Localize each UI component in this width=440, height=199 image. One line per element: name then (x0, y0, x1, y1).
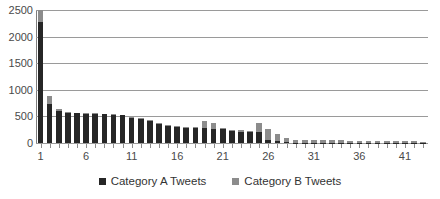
bar-column[interactable] (127, 10, 136, 143)
bar-column[interactable] (291, 10, 300, 143)
x-axis-tick (246, 144, 255, 149)
y-axis-tick-label: 1000 (3, 84, 33, 95)
bar-segment-category-a[interactable] (165, 126, 171, 143)
bar-column[interactable] (400, 10, 409, 143)
bar-segment-category-a[interactable] (220, 129, 226, 143)
bar-segment-category-a[interactable] (229, 131, 235, 143)
bar-column[interactable] (218, 10, 227, 143)
x-axis-label-cell (145, 150, 154, 166)
bar-column[interactable] (136, 10, 145, 143)
bar-segment-category-a[interactable] (47, 104, 53, 143)
bar-segment-category-b[interactable] (256, 123, 262, 132)
bar-segment-category-a[interactable] (156, 124, 162, 143)
bar-column[interactable] (173, 10, 182, 143)
bar-column[interactable] (282, 10, 291, 143)
x-axis-tick (82, 144, 91, 149)
legend-item[interactable]: Category A Tweets (99, 175, 207, 187)
bar-segment-category-a[interactable] (138, 119, 144, 143)
bar-segment-category-a[interactable] (202, 128, 208, 143)
bar-column[interactable] (273, 10, 282, 143)
bar-column[interactable] (227, 10, 236, 143)
bar-segment-category-a[interactable] (38, 22, 44, 143)
bar-segment-category-b[interactable] (47, 96, 53, 103)
bar-column[interactable] (373, 10, 382, 143)
y-axis-tick-label: 0 (3, 138, 33, 149)
bar-column[interactable] (255, 10, 264, 143)
x-axis-label-cell (382, 150, 391, 166)
bar-column[interactable] (200, 10, 209, 143)
bar-segment-category-a[interactable] (129, 118, 135, 143)
bar-segment-category-a[interactable] (265, 140, 271, 143)
bar-column[interactable] (54, 10, 63, 143)
bar-segment-category-b[interactable] (275, 134, 281, 141)
bar-column[interactable] (309, 10, 318, 143)
bar-segment-category-a[interactable] (147, 121, 153, 143)
bar-column[interactable] (182, 10, 191, 143)
bar-segment-category-a[interactable] (193, 128, 199, 143)
legend-item[interactable]: Category B Tweets (232, 175, 341, 187)
x-axis-label-cell (100, 150, 109, 166)
bar-segment-category-a[interactable] (238, 132, 244, 143)
bar-column[interactable] (409, 10, 418, 143)
bar-segment-category-a[interactable] (74, 113, 80, 143)
bar-column[interactable] (355, 10, 364, 143)
bar-column[interactable] (164, 10, 173, 143)
bar-segment-category-a[interactable] (56, 111, 62, 143)
x-axis-tick (100, 144, 109, 149)
bar-segment-category-a[interactable] (120, 115, 126, 143)
bar-column[interactable] (209, 10, 218, 143)
bar-column[interactable] (154, 10, 163, 143)
bar-segment-category-a[interactable] (83, 114, 89, 143)
bar-segment-category-a[interactable] (275, 141, 281, 143)
bar-column[interactable] (118, 10, 127, 143)
y-axis-tick-label: 2500 (3, 5, 33, 16)
bar-segment-category-a[interactable] (92, 114, 98, 143)
x-axis-tick (264, 144, 273, 149)
bar-segment-category-a[interactable] (284, 142, 290, 143)
bar-column[interactable] (419, 10, 428, 143)
x-axis-tick (173, 144, 182, 149)
bar-segment-category-a[interactable] (256, 132, 262, 143)
chart-container: 05001000150020002500 1611162126313641 Ca… (0, 0, 440, 199)
bar-column[interactable] (382, 10, 391, 143)
bar-column[interactable] (246, 10, 255, 143)
bar-segment-category-a[interactable] (102, 114, 108, 143)
bar-segment-category-a[interactable] (211, 129, 217, 143)
x-axis-tick (164, 144, 173, 149)
x-axis-tick (109, 144, 118, 149)
x-axis-tick (273, 144, 282, 149)
bar-column[interactable] (300, 10, 309, 143)
bar-segment-category-a[interactable] (174, 127, 180, 143)
bar-column[interactable] (346, 10, 355, 143)
bar-column[interactable] (72, 10, 81, 143)
bar-column[interactable] (145, 10, 154, 143)
bar-segment-category-a[interactable] (183, 128, 189, 143)
bar-column[interactable] (318, 10, 327, 143)
bar-segment-category-a[interactable] (65, 113, 71, 143)
bar-column[interactable] (82, 10, 91, 143)
bar-column[interactable] (264, 10, 273, 143)
bar-segment-category-b[interactable] (38, 10, 44, 22)
x-axis-tick (200, 144, 209, 149)
x-axis-tick (154, 144, 163, 149)
bar-column[interactable] (45, 10, 54, 143)
bar-column[interactable] (364, 10, 373, 143)
bar-column[interactable] (236, 10, 245, 143)
bar-segment-category-a[interactable] (111, 115, 117, 143)
bar-column[interactable] (63, 10, 72, 143)
x-axis-label-cell (109, 150, 118, 166)
x-axis-label-cell (91, 150, 100, 166)
bar-segment-category-b[interactable] (265, 129, 271, 140)
bar-column[interactable] (391, 10, 400, 143)
bar-column[interactable] (191, 10, 200, 143)
bar-segment-category-a[interactable] (247, 132, 253, 143)
bar-column[interactable] (36, 10, 45, 143)
bar-column[interactable] (91, 10, 100, 143)
x-axis-tick (191, 144, 200, 149)
bar-column[interactable] (337, 10, 346, 143)
bar-column[interactable] (328, 10, 337, 143)
bar-column[interactable] (100, 10, 109, 143)
x-axis-tick (63, 144, 72, 149)
bar-column[interactable] (109, 10, 118, 143)
bar-segment-category-b[interactable] (202, 121, 208, 129)
